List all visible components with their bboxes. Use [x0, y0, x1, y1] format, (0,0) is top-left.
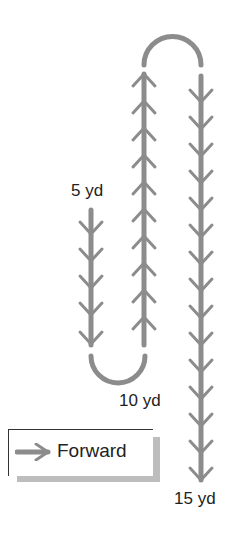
- turn-distance-label: 10 yd: [119, 392, 161, 409]
- bottom-turn-arc: [91, 356, 145, 383]
- arrow-right-icon: [15, 443, 51, 461]
- legend-label: Forward: [57, 441, 127, 460]
- legend-shadow-bottom: [17, 476, 160, 482]
- end-distance-label: 15 yd: [174, 490, 216, 507]
- top-turn-arc: [144, 37, 201, 65]
- start-distance-label: 5 yd: [71, 182, 103, 199]
